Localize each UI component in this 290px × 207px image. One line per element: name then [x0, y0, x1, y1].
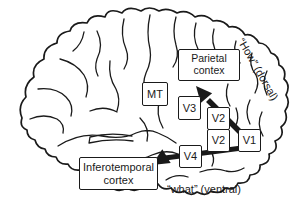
area-box-parietal-cortex: Parietal contex — [178, 49, 240, 81]
inferotemporal-label-line2: cortex — [104, 174, 134, 186]
area-box-v4: V4 — [179, 145, 202, 168]
area-box-v1: V1 — [238, 129, 261, 152]
figure-canvas: Parietal contex MT V3 V2 V2 V1 V4 Infero… — [0, 0, 290, 207]
inferotemporal-label-line1: Inferotemporal — [83, 161, 154, 173]
area-box-inferotemporal-cortex: Inferotemporal cortex — [79, 157, 158, 190]
area-box-mt: MT — [142, 82, 168, 106]
area-box-v2-upper: V2 — [207, 107, 230, 130]
area-box-v2-lower: V2 — [207, 129, 230, 152]
parietal-label-line2: contex — [194, 65, 225, 77]
area-box-v3: V3 — [178, 96, 201, 120]
ventral-stream-label: “what” (ventral) — [167, 183, 241, 195]
